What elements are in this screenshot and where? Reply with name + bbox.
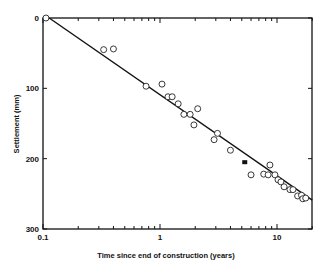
data-point-open [181, 111, 187, 117]
x-tick-label: 10 [273, 233, 282, 242]
data-points [43, 15, 309, 202]
data-point-open [191, 122, 197, 128]
data-point-open [187, 111, 193, 117]
data-point-open [248, 172, 254, 178]
data-point-open [227, 147, 233, 153]
data-point-filled [242, 160, 247, 164]
data-point-open [175, 101, 181, 107]
data-point-open [159, 81, 165, 87]
data-point-open [290, 187, 296, 193]
data-point-open [211, 137, 217, 143]
data-point-open [43, 15, 49, 21]
data-point-open [110, 46, 116, 52]
axis-ticks [43, 18, 312, 229]
data-point-open [267, 162, 273, 168]
data-point-open [281, 184, 287, 190]
y-tick-label: 0 [35, 14, 40, 23]
y-tick-label: 300 [26, 225, 40, 234]
data-point-open [143, 83, 149, 89]
y-tick-label: 100 [26, 84, 40, 93]
y-axis-label: Settlement (mm) [12, 94, 21, 153]
data-point-open [303, 195, 309, 201]
tick-labels: 0.11100100200300 [26, 14, 282, 242]
data-point-open [195, 106, 201, 112]
x-tick-label: 1 [158, 233, 163, 242]
x-tick-label: 0.1 [37, 233, 49, 242]
data-point-open [169, 94, 175, 100]
x-axis-label: Time since end of construction (years) [97, 251, 235, 260]
data-point-open [265, 172, 271, 178]
data-point-open [214, 130, 220, 136]
settlement-chart: 0.11100100200300 Time since end of const… [0, 0, 328, 267]
y-tick-label: 200 [26, 155, 40, 164]
axes-box [43, 18, 312, 229]
data-point-open [101, 47, 107, 53]
plot-frame [43, 18, 312, 229]
